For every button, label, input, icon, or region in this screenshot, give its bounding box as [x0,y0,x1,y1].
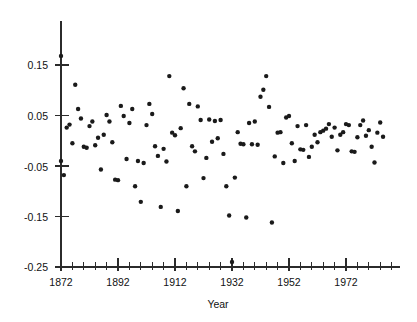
data-point [102,132,106,136]
data-point [161,147,165,151]
data-point [301,148,305,152]
plot-area [0,0,417,322]
data-point [176,209,180,213]
data-point [207,117,211,121]
y-tick-label: -0.15 [4,211,48,223]
x-tick-label: 1912 [163,276,186,288]
data-point [119,104,123,108]
data-point [181,86,185,90]
data-point [267,105,271,109]
axes [55,21,400,271]
data-point [364,134,368,138]
y-tick-label: -0.25 [4,261,48,273]
data-point [136,159,140,163]
data-point [187,102,191,106]
data-point [290,141,294,145]
data-point [179,126,183,130]
data-point [335,148,339,152]
data-point [295,124,299,128]
data-point [139,200,143,204]
data-point [193,149,197,153]
data-point [184,184,188,188]
data-point [124,157,128,161]
data-point [99,167,103,171]
data-point [304,123,308,127]
data-point [76,107,80,111]
data-point [167,74,171,78]
data-point [247,121,251,125]
data-point [122,114,126,118]
data-point [218,118,222,122]
data-point [367,128,371,132]
data-point [93,143,97,147]
data-point [261,88,265,92]
data-point [273,154,277,158]
data-point [236,130,240,134]
data-point [352,150,356,154]
data-point [159,205,163,209]
data-point [164,159,168,163]
data-point [293,159,297,163]
data-point [270,220,274,224]
y-tick-label: 0.05 [4,110,48,122]
data-point [355,135,359,139]
data-point [361,118,365,122]
data-point [315,140,319,144]
data-point [281,161,285,165]
data-point [255,143,259,147]
data-point [201,176,205,180]
data-point [324,126,328,130]
x-tick-label: 1872 [49,276,72,288]
x-axis-title: Year [207,298,228,310]
data-point [216,136,220,140]
data-point [233,175,237,179]
data-point [147,102,151,106]
data-point [224,184,228,188]
data-point [104,113,108,117]
data-point [59,54,63,58]
data-point [227,213,231,217]
data-point [221,152,225,156]
data-point [153,144,157,148]
data-point [79,116,83,120]
data-point [341,130,345,134]
data-point [213,119,217,123]
data-point [230,260,234,264]
data-point [150,112,154,116]
data-point [127,121,131,125]
data-point [378,120,382,124]
data-point [87,124,91,128]
data-point [369,145,373,149]
data-point [258,95,262,99]
data-point [204,156,208,160]
data-point [196,104,200,108]
data-point [312,132,316,136]
data-point [250,142,254,146]
data-point [59,159,63,163]
data-point [70,141,74,145]
x-tick-label: 1932 [220,276,243,288]
data-point [241,142,245,146]
data-point [278,130,282,134]
data-point [330,135,334,139]
data-point [310,145,314,149]
data-point [253,119,257,123]
data-point [110,140,114,144]
data-point [358,123,362,127]
data-point [133,184,137,188]
data-point [130,107,134,111]
data-point [332,125,336,129]
data-point [96,136,100,140]
data-point [90,119,94,123]
scatter-chart: 0.15 0.05 -0.05 -0.15 -0.25 1872 1892 19… [0,0,417,322]
data-point [375,130,379,134]
data-point [372,160,376,164]
data-points [59,54,385,264]
x-tick-label: 1892 [106,276,129,288]
data-point [210,140,214,144]
x-tick-label: 1952 [277,276,300,288]
data-point [244,215,248,219]
x-tick-label: 1972 [334,276,357,288]
data-point [381,135,385,139]
data-point [287,114,291,118]
